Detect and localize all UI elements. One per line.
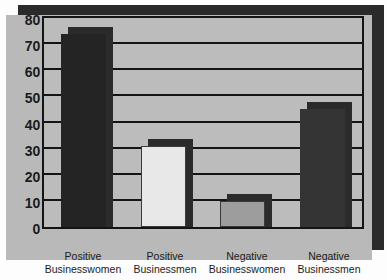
x-axis-label-line-2: Businesswomen — [206, 263, 288, 276]
y-axis-tick-label: 30 — [6, 144, 40, 158]
x-axis-label-line-2: Businessmen — [288, 263, 370, 276]
bar — [61, 34, 106, 227]
x-axis-category-label: PositiveBusinesswomen — [42, 248, 124, 280]
bar-slot — [141, 18, 186, 227]
x-axis-label-line-2: Businessmen — [124, 263, 206, 276]
y-axis: 01020304050607080 — [0, 16, 40, 229]
x-axis-category-label: PositiveBusinessmen — [124, 248, 206, 280]
x-axis-label-line-1: Negative — [206, 250, 288, 263]
bar-series — [44, 18, 362, 227]
x-axis-label-line-1: Positive — [42, 250, 124, 263]
y-axis-tick-label: 10 — [6, 196, 40, 210]
y-axis-tick-label: 60 — [6, 65, 40, 79]
plot-area — [42, 16, 364, 229]
bar — [141, 146, 186, 227]
x-axis-label-line-2: Businesswomen — [42, 263, 124, 276]
x-axis-category-label: NegativeBusinesswomen — [206, 248, 288, 280]
bar — [220, 201, 265, 227]
y-axis-tick-label: 20 — [6, 170, 40, 184]
y-axis-tick-label: 40 — [6, 118, 40, 132]
y-axis-tick-label: 80 — [6, 13, 40, 27]
bar-slot — [220, 18, 265, 227]
x-axis-labels: PositiveBusinesswomenPositiveBusinessmen… — [42, 248, 370, 280]
bar-slot — [300, 18, 345, 227]
bar-slot — [61, 18, 106, 227]
x-axis-category-label: NegativeBusinessmen — [288, 248, 370, 280]
bar — [300, 109, 345, 227]
y-axis-tick-label: 70 — [6, 39, 40, 53]
x-axis-label-line-1: Positive — [124, 250, 206, 263]
y-axis-tick-label: 0 — [6, 222, 40, 236]
y-axis-tick-label: 50 — [6, 91, 40, 105]
x-axis-label-line-1: Negative — [288, 250, 370, 263]
chart-figure: 01020304050607080 PositiveBusinesswomenP… — [0, 0, 387, 280]
